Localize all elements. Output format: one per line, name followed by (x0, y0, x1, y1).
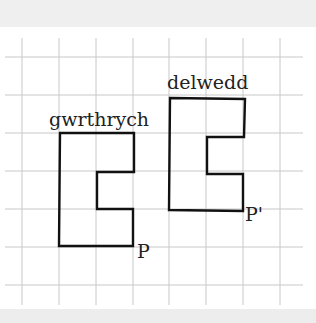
grid-lines (5, 38, 303, 305)
point-p-prime-label: P' (245, 203, 263, 225)
object-label: gwrthrych (49, 108, 149, 130)
diagram-page: gwrthrych delwedd P P' (0, 0, 316, 323)
image-label: delwedd (167, 71, 248, 93)
image-shape (169, 98, 245, 211)
translation-diagram: gwrthrych delwedd P P' (0, 0, 316, 323)
point-p-label: P (137, 240, 150, 262)
